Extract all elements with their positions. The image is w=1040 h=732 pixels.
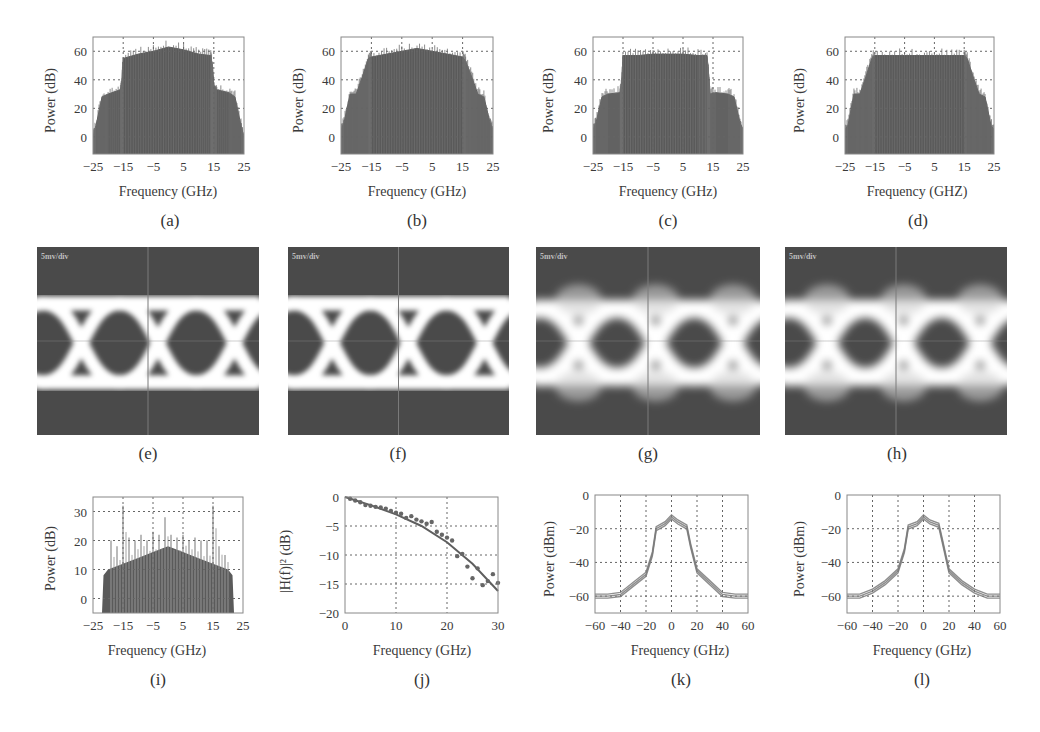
y-axis-label: Power (dBm) bbox=[542, 521, 558, 597]
panel-e: 5mv/div (e) bbox=[37, 247, 259, 462]
svg-text:−15: −15 bbox=[113, 618, 133, 633]
svg-text:−15: −15 bbox=[361, 159, 381, 174]
svg-text:−25: −25 bbox=[83, 618, 103, 633]
svg-text:0: 0 bbox=[81, 592, 88, 607]
svg-text:10: 10 bbox=[390, 618, 403, 633]
svg-text:0: 0 bbox=[81, 130, 88, 145]
panel-label: (l) bbox=[892, 670, 952, 690]
svg-text:−5: −5 bbox=[325, 519, 339, 534]
svg-text:−20: −20 bbox=[569, 522, 589, 537]
svg-text:−60: −60 bbox=[585, 618, 605, 633]
svg-text:−15: −15 bbox=[865, 159, 885, 174]
svg-text:−25: −25 bbox=[83, 159, 103, 174]
y-axis-label: Power (dBm) bbox=[792, 521, 808, 597]
panel-label: (j) bbox=[392, 670, 452, 690]
x-axis-label: Frequency (GHz) bbox=[317, 184, 517, 200]
svg-text:−20: −20 bbox=[319, 606, 339, 621]
svg-text:20: 20 bbox=[943, 618, 956, 633]
y-axis-label: |H(f)|² (dB) bbox=[278, 530, 294, 593]
svg-text:25: 25 bbox=[737, 159, 750, 174]
svg-text:−5: −5 bbox=[898, 159, 912, 174]
y-axis-label: Power (dB) bbox=[291, 68, 307, 133]
svg-text:−40: −40 bbox=[569, 555, 589, 570]
svg-text:0: 0 bbox=[835, 488, 842, 503]
y-axis-label: Power (dB) bbox=[541, 68, 557, 133]
svg-text:0: 0 bbox=[583, 488, 590, 503]
x-axis-label: Frequency (GHz) bbox=[568, 184, 768, 200]
panel-f: 5mv/div (f) bbox=[288, 247, 510, 462]
svg-text:−40: −40 bbox=[610, 618, 630, 633]
panel-label: (d) bbox=[888, 211, 948, 231]
x-axis-label: Frequency (GHz) bbox=[57, 643, 257, 659]
svg-text:−40: −40 bbox=[821, 555, 841, 570]
panel-label: (b) bbox=[387, 211, 447, 231]
svg-text:60: 60 bbox=[826, 44, 839, 59]
panel-h: 5mv/div (h) bbox=[785, 247, 1010, 462]
svg-text:15: 15 bbox=[207, 618, 220, 633]
svg-text:10: 10 bbox=[74, 563, 87, 578]
scope-scale-label: 5mv/div bbox=[41, 252, 69, 261]
panel-c: −25−15−5515250204060 Power (dB) Frequenc… bbox=[520, 0, 780, 230]
svg-text:−40: −40 bbox=[862, 618, 882, 633]
svg-text:40: 40 bbox=[968, 618, 981, 633]
eye-diagram-e: 5mv/div bbox=[37, 247, 259, 435]
svg-text:−5: −5 bbox=[646, 159, 660, 174]
svg-text:0: 0 bbox=[342, 618, 349, 633]
svg-text:25: 25 bbox=[988, 159, 1001, 174]
svg-text:20: 20 bbox=[826, 101, 839, 116]
svg-text:−20: −20 bbox=[888, 618, 908, 633]
svg-text:0: 0 bbox=[668, 618, 675, 633]
svg-text:0: 0 bbox=[333, 490, 340, 505]
eye-diagram-h: 5mv/div bbox=[785, 247, 1007, 435]
svg-text:20: 20 bbox=[74, 534, 87, 549]
svg-text:−60: −60 bbox=[569, 589, 589, 604]
x-axis-label: Frequency (GHz) bbox=[580, 643, 780, 659]
x-axis-label: Frequency (GHz) bbox=[822, 643, 1022, 659]
panel-g: 5mv/div (g) bbox=[536, 247, 761, 462]
panel-l: −60−40−2002040600−20−40−60 Power (dBm) F… bbox=[780, 460, 1040, 720]
svg-text:−25: −25 bbox=[583, 159, 603, 174]
transfer-function-plot-j: 01020300−5−10−15−20 bbox=[260, 460, 520, 720]
scope-scale-label: 5mv/div bbox=[540, 252, 568, 261]
svg-text:40: 40 bbox=[74, 73, 87, 88]
svg-text:20: 20 bbox=[441, 618, 454, 633]
panel-b: −25−15−5515250204060 Power (dB) Frequenc… bbox=[260, 0, 520, 230]
svg-text:25: 25 bbox=[237, 618, 250, 633]
svg-text:−5: −5 bbox=[146, 159, 160, 174]
svg-text:60: 60 bbox=[574, 44, 587, 59]
svg-text:−15: −15 bbox=[319, 577, 339, 592]
svg-text:−10: −10 bbox=[319, 548, 339, 563]
svg-text:60: 60 bbox=[322, 44, 335, 59]
svg-text:25: 25 bbox=[487, 159, 500, 174]
optical-spectrum-plot-k: −60−40−2002040600−20−40−60 bbox=[520, 460, 780, 720]
svg-text:−25: −25 bbox=[331, 159, 351, 174]
x-axis-label: Frequency (GHz) bbox=[68, 184, 268, 200]
svg-text:40: 40 bbox=[574, 73, 587, 88]
svg-text:5: 5 bbox=[180, 159, 187, 174]
svg-text:5: 5 bbox=[680, 159, 687, 174]
panel-label: (k) bbox=[651, 670, 711, 690]
svg-text:5: 5 bbox=[931, 159, 938, 174]
svg-text:−60: −60 bbox=[837, 618, 857, 633]
svg-text:40: 40 bbox=[322, 73, 335, 88]
svg-text:−60: −60 bbox=[821, 589, 841, 604]
svg-text:0: 0 bbox=[581, 130, 588, 145]
svg-text:−25: −25 bbox=[835, 159, 855, 174]
svg-text:−5: −5 bbox=[146, 618, 160, 633]
svg-text:−15: −15 bbox=[113, 159, 133, 174]
panel-k: −60−40−2002040600−20−40−60 Power (dBm) F… bbox=[520, 460, 780, 720]
svg-text:15: 15 bbox=[456, 159, 469, 174]
svg-text:−15: −15 bbox=[613, 159, 633, 174]
svg-text:20: 20 bbox=[691, 618, 704, 633]
svg-text:40: 40 bbox=[716, 618, 729, 633]
svg-text:15: 15 bbox=[707, 159, 720, 174]
svg-text:−20: −20 bbox=[636, 618, 656, 633]
svg-text:0: 0 bbox=[920, 618, 927, 633]
svg-text:5: 5 bbox=[180, 618, 187, 633]
panel-label: (i) bbox=[128, 670, 188, 690]
svg-text:20: 20 bbox=[74, 101, 87, 116]
svg-text:30: 30 bbox=[74, 505, 87, 520]
y-axis-label: Power (dB) bbox=[43, 526, 59, 591]
x-axis-label: Frequency (GHZ) bbox=[817, 184, 1017, 200]
svg-text:60: 60 bbox=[742, 618, 755, 633]
